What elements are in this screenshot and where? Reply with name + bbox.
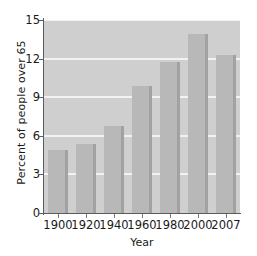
- bar: [160, 62, 180, 213]
- bar-chart-figure: Percent of people over 65 15 12 9 6 3 0 …: [0, 0, 257, 256]
- bar: [132, 86, 152, 213]
- y-tick-label: 3: [14, 167, 40, 181]
- y-tick-mark: [39, 213, 44, 214]
- gridline: [44, 58, 240, 60]
- x-tick-mark: [198, 214, 199, 218]
- bar: [76, 144, 96, 213]
- y-tick-label: 12: [14, 52, 40, 66]
- x-axis-tick-labels: 1900192019401960198020002007: [44, 218, 240, 234]
- y-tick-label: 9: [14, 90, 40, 104]
- y-tick-mark: [39, 59, 44, 60]
- x-tick-mark: [226, 214, 227, 218]
- bar: [188, 34, 208, 213]
- x-tick-mark: [86, 214, 87, 218]
- y-tick-mark: [39, 174, 44, 175]
- bar: [48, 150, 68, 213]
- x-tick-mark: [142, 214, 143, 218]
- gridline: [44, 20, 240, 21]
- y-tick-mark: [39, 20, 44, 21]
- y-tick-label: 6: [14, 129, 40, 143]
- x-tick-mark: [58, 214, 59, 218]
- plot-area: [44, 20, 240, 213]
- bar: [104, 126, 124, 213]
- y-tick-mark: [39, 136, 44, 137]
- x-tick-mark: [170, 214, 171, 218]
- x-tick-label: 2007: [206, 218, 246, 232]
- y-tick-label: 0: [14, 206, 40, 220]
- y-tick-mark: [39, 97, 44, 98]
- y-tick-label: 15: [14, 13, 40, 27]
- x-tick-mark: [114, 214, 115, 218]
- y-axis-tick-labels: 15 12 9 6 3 0: [14, 20, 40, 213]
- bar: [216, 55, 236, 213]
- x-axis-label: Year: [44, 236, 240, 249]
